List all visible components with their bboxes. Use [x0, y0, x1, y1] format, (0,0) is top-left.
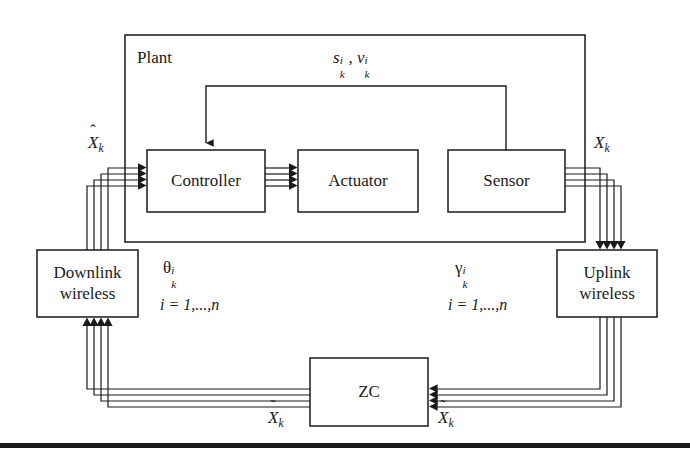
- diagram-vector-layer: [0, 0, 690, 463]
- bus-arrowheads-actuator-in: [289, 163, 298, 190]
- bus-arrowheads-uplink-in: [595, 241, 625, 250]
- bus-zc-to-downlink: [87, 322, 310, 407]
- noise-v-sub: k: [365, 68, 370, 80]
- uplink-wireless-box: [557, 250, 657, 317]
- noise-signal-label: sik, νik: [333, 48, 373, 68]
- x-tilde-left-accent: ˜: [270, 396, 276, 416]
- bus-uplink-to-zc: [437, 317, 621, 407]
- gamma-signal-label: γik: [455, 258, 471, 278]
- noise-s-sup: i: [340, 54, 343, 66]
- x-tilde-k-left-label: ˜Xk: [268, 408, 284, 430]
- theta-base: θ: [163, 258, 171, 277]
- bus-arrowheads-controller-in: [138, 163, 147, 190]
- bus-arrowheads-zc-in: [429, 384, 438, 411]
- gamma-base: γ: [455, 258, 463, 277]
- block-diagram-canvas: Plant Controller Actuator Sensor Downlin…: [0, 0, 690, 463]
- theta-index-range-label: i = 1,...,n: [160, 296, 219, 314]
- x-tilde-left-sub: k: [279, 417, 284, 430]
- noise-separator: ,: [348, 48, 352, 67]
- sensor-box: [448, 150, 565, 212]
- plant-label: Plant: [137, 48, 172, 68]
- noise-v-sup: i: [365, 54, 368, 66]
- bus-sensor-to-uplink: [565, 168, 621, 245]
- controller-box: [147, 150, 265, 212]
- x-hat-sub: k: [99, 142, 104, 155]
- gamma-index-range-label: i = 1,...,n: [448, 296, 507, 314]
- x-tilde-k-right-label: ˜Xk: [438, 408, 454, 430]
- bus-controller-to-actuator: [265, 168, 290, 186]
- bus-downlink-to-controller: [87, 168, 139, 250]
- noise-s-sub: k: [340, 68, 345, 80]
- x-k-label: Xk: [594, 133, 610, 155]
- gamma-sub: k: [463, 278, 468, 290]
- noise-v-base: ν: [357, 48, 365, 67]
- theta-sub: k: [171, 278, 176, 290]
- feedback-path-sensor-controller: [206, 86, 506, 150]
- x-tilde-right-accent: ˜: [440, 396, 446, 416]
- bus-arrowheads-downlink-in: [82, 317, 112, 326]
- noise-s-base: s: [333, 48, 340, 67]
- zc-box: [310, 358, 428, 426]
- x-k-base: X: [594, 133, 604, 152]
- downlink-wireless-box: [37, 250, 138, 317]
- actuator-box: [298, 150, 418, 212]
- page-bottom-rule: [0, 443, 690, 448]
- gamma-sup: i: [463, 264, 466, 276]
- theta-signal-label: θik: [163, 258, 180, 278]
- x-k-sub: k: [605, 142, 610, 155]
- x-hat-accent: ˆ: [90, 121, 96, 141]
- x-hat-k-label: ˆXk: [88, 133, 104, 155]
- theta-sup: i: [171, 264, 174, 276]
- x-tilde-right-sub: k: [449, 417, 454, 430]
